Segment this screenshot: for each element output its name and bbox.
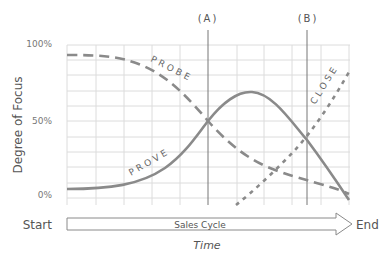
start-label: Start [23, 218, 53, 232]
y-tick-50: 50% [32, 116, 52, 126]
x-axis-label: Time [193, 239, 220, 252]
marker-a-label: (A) [198, 13, 219, 24]
y-axis-label: Degree of Focus [11, 76, 25, 173]
y-tick-0: 0% [38, 190, 53, 200]
close-label: CLOSE [308, 63, 340, 106]
y-tick-100: 100% [26, 39, 52, 49]
marker-b-label: (B) [298, 13, 319, 24]
sales-cycle-label: Sales Cycle [174, 220, 226, 230]
prove-label: PROVE [127, 146, 171, 177]
probe-label: PROBE [149, 54, 194, 84]
end-label: End [356, 218, 379, 232]
sales-cycle-diagram: (A) (B) 100% 50% 0% Degree of Focus PROB… [0, 0, 391, 271]
